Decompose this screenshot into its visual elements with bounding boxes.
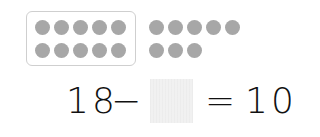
counter-dot	[168, 20, 183, 35]
result: 10	[245, 78, 291, 124]
counter-dot	[54, 43, 69, 58]
answer-input[interactable]	[150, 79, 193, 123]
counter-dot	[35, 43, 50, 58]
counter-dot	[187, 20, 202, 35]
counter-dot	[168, 43, 183, 58]
counter-dot	[92, 20, 107, 35]
counter-dot	[225, 20, 240, 35]
counter-dot	[73, 20, 88, 35]
counter-dot	[54, 20, 69, 35]
counter-dot	[187, 43, 202, 58]
counter-dot	[92, 43, 107, 58]
counter-dot	[149, 20, 164, 35]
counter-dot	[111, 43, 126, 58]
minus-sign: −	[111, 78, 144, 124]
counter-dot	[35, 20, 50, 35]
counter-dot	[149, 43, 164, 58]
equals-sign: =	[205, 78, 238, 124]
counter-dot	[111, 20, 126, 35]
counter-dot	[73, 43, 88, 58]
counter-dot	[206, 20, 221, 35]
